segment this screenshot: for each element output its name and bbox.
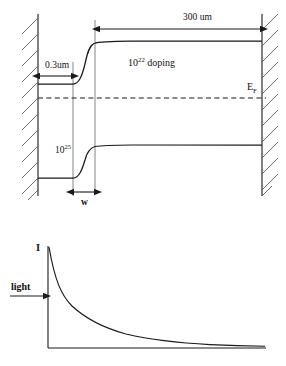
intensity-decay-curve <box>49 247 265 346</box>
photocurrent-decay-plot <box>10 246 266 348</box>
intensity-axis-label: I <box>36 243 40 254</box>
depletion-label: 0.3um <box>45 61 69 71</box>
heavy-doping-label: 1025 <box>55 146 71 156</box>
doping-label: 1022 doping <box>128 58 175 68</box>
valence-band-curve <box>38 145 262 178</box>
left-contact-hatching <box>22 14 38 200</box>
device-length-label: 300 um <box>183 13 212 23</box>
light-label: light <box>11 282 30 292</box>
right-contact-hatching <box>262 14 278 196</box>
figure-root: 0.3um 1022 doping 1025 300 um w EF I lig… <box>0 0 286 366</box>
energy-band-diagram <box>22 14 278 200</box>
depletion-width-label: w <box>81 198 88 208</box>
fermi-level-label: EF <box>247 82 257 92</box>
